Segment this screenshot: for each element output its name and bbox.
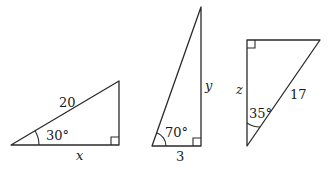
right-angle-marker (111, 137, 119, 145)
right-angle-marker (193, 138, 201, 146)
angle-arc (35, 131, 39, 145)
hypotenuse-label: 17 (290, 87, 307, 102)
angle-label: 30° (46, 128, 69, 143)
side-label: y (204, 78, 213, 93)
side-label: z (235, 82, 243, 97)
angle-arc (247, 123, 260, 127)
triangle-2: y 70° 3 (152, 7, 213, 164)
base-label: 3 (176, 149, 184, 164)
angle-label: 35° (249, 106, 272, 121)
triangle-3: z 17 35° (235, 40, 320, 146)
right-angle-marker (247, 40, 255, 48)
triangle-3-outline (247, 40, 320, 146)
right-triangles-figure: 20 30° x y 70° 3 z 17 35° (0, 0, 334, 171)
base-label: x (76, 148, 84, 163)
angle-label: 70° (165, 125, 188, 140)
triangle-1: 20 30° x (11, 81, 119, 163)
hypotenuse-label: 20 (59, 95, 76, 110)
